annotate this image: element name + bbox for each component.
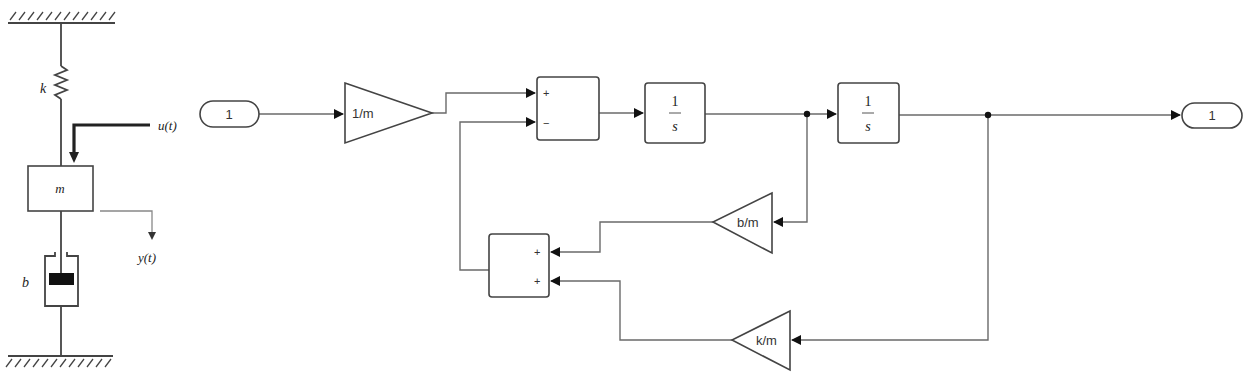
displacement-arrow-icon	[100, 211, 156, 240]
bottom-ground-icon	[6, 356, 113, 367]
spring-label: k	[40, 81, 47, 96]
sum-block-main[interactable]: + −	[537, 77, 599, 140]
integrator-1-numerator: 1	[672, 94, 679, 109]
outport-label: 1	[1208, 108, 1215, 123]
gain-block-1-over-m[interactable]: 1/m	[345, 83, 432, 143]
gain-k-over-m-label: k/m	[756, 333, 777, 348]
output-displacement-label: y(t)	[136, 250, 156, 265]
wire-gain-to-sum[interactable]	[432, 93, 535, 113]
integrator-block-1[interactable]: 1 s	[645, 83, 705, 143]
outport-block[interactable]: 1	[1182, 103, 1242, 128]
wire-damping-to-sum2[interactable]	[551, 222, 713, 252]
wire-position-feedback[interactable]	[792, 115, 988, 340]
inport-block[interactable]: 1	[200, 101, 259, 127]
inport-label: 1	[225, 107, 232, 122]
diagram-canvas: k u(t) m y(t) b	[0, 0, 1249, 386]
sum-block-feedback[interactable]: + +	[489, 234, 549, 297]
spring-icon	[55, 23, 67, 166]
top-ground-icon	[8, 12, 115, 23]
mass-spring-damper-model: k u(t) m y(t) b	[6, 12, 177, 367]
branch-point-position	[985, 112, 991, 118]
input-force-label: u(t)	[158, 118, 177, 133]
mass-label: m	[55, 181, 64, 196]
sum-main-minus-sign: −	[543, 117, 549, 129]
wire-spring-to-sum2[interactable]	[551, 281, 732, 340]
force-input-arrow-icon	[69, 125, 150, 163]
signal-lines	[259, 93, 1180, 340]
branch-point-velocity	[804, 111, 810, 117]
integrator-block-2[interactable]: 1 s	[838, 83, 899, 143]
gain-1-over-m-label: 1/m	[352, 106, 374, 121]
simulink-model: 1 1/m + − 1 s 1 s b/m	[200, 77, 1242, 370]
sum-main-plus-sign: +	[543, 87, 549, 99]
integrator-2-numerator: 1	[865, 94, 872, 109]
sum-feedback-plus-sign-1: +	[534, 246, 540, 258]
integrator-2-denominator: s	[865, 119, 871, 134]
integrator-1-denominator: s	[672, 119, 678, 134]
wire-velocity-feedback[interactable]	[774, 114, 807, 222]
gain-block-k-over-m[interactable]: k/m	[732, 311, 790, 370]
gain-b-over-m-label: b/m	[737, 215, 759, 230]
damper-label: b	[22, 275, 29, 290]
damper-icon	[45, 211, 78, 355]
gain-block-b-over-m[interactable]: b/m	[713, 193, 772, 253]
sum-feedback-plus-sign-2: +	[534, 275, 540, 287]
